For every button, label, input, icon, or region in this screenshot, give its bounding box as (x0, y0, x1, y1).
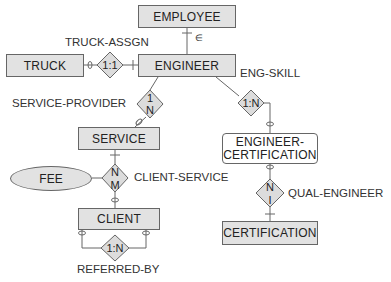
relationship-label-qual-engineer: QUAL-ENGINEER (288, 187, 383, 199)
relationship-label-service-provider: SERVICE-PROVIDER (12, 97, 126, 109)
cardinality-referred-by: 1:N (101, 243, 129, 253)
entity-label: CLIENT (97, 212, 141, 226)
cardinality-service-provider-bottom: N (140, 105, 160, 115)
cardinality-client-service-bottom: M (105, 180, 125, 190)
cardinality-truck-assgn: 1:1 (97, 60, 123, 70)
attribute-fee: FEE (10, 166, 92, 191)
entity-service: SERVICE (78, 127, 160, 150)
entity-employee: EMPLOYEE (138, 5, 236, 28)
entity-label-line2: CERTIFICATION (223, 149, 317, 162)
entity-engineer-certification: ENGINEER- CERTIFICATION (222, 133, 318, 164)
relationship-label-eng-skill: ENG-SKILL (240, 67, 300, 79)
entity-certification: CERTIFICATION (222, 221, 318, 245)
relationship-label-truck-assgn: TRUCK-ASSGN (65, 36, 149, 48)
entity-label: CERTIFICATION (223, 226, 317, 240)
entity-label: EMPLOYEE (153, 10, 221, 24)
entity-client: CLIENT (78, 208, 160, 230)
relationship-label-client-service: CLIENT-SERVICE (134, 171, 228, 183)
entity-engineer: ENGINEER (138, 54, 236, 77)
entity-label: SERVICE (92, 132, 146, 146)
entity-label-line1: ENGINEER- (236, 136, 304, 149)
cardinality-service-provider-top: 1 (140, 93, 160, 103)
attribute-label: FEE (39, 172, 62, 186)
cardinality-qual-engineer-top: N (260, 182, 280, 192)
cardinality-client-service-top: N (105, 167, 125, 177)
entity-truck: TRUCK (6, 54, 84, 77)
relationship-label-referred-by: REFERRED-BY (77, 263, 159, 275)
subtype-symbol: ∈ (195, 33, 203, 43)
entity-label: TRUCK (24, 59, 66, 73)
cardinality-qual-engineer-bottom: I (260, 195, 280, 205)
cardinality-eng-skill: 1:N (238, 98, 264, 108)
entity-label: ENGINEER (155, 59, 219, 73)
